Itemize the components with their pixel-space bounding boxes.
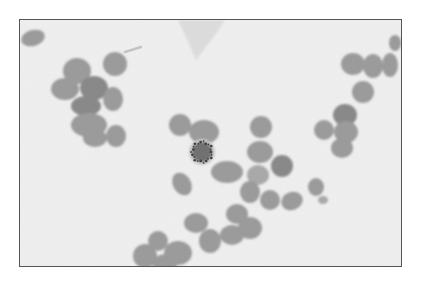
grain-overlay — [20, 20, 401, 266]
micrograph-frame — [19, 19, 402, 267]
micrograph — [20, 20, 401, 266]
